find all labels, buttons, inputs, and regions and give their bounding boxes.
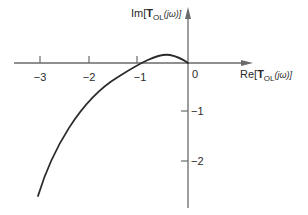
origin-label: 0 [192, 68, 198, 80]
x-tick-label-neg2: −2 [83, 71, 96, 83]
imag-axis-arrow-icon [185, 7, 191, 19]
real-label-sub: OL [264, 74, 275, 83]
imag-label-arg: (jω)] [164, 9, 182, 19]
imag-label-sub: OL [153, 13, 164, 22]
real-label-prefix: Re[ [240, 68, 257, 80]
nyquist-diagram: −3 −2 −1 0 −1 −2 Im[TOL(jω)] Re[TOL(jω)] [0, 0, 308, 215]
x-tick-label-neg1: −1 [134, 71, 147, 83]
real-axis-label: Re[TOL(jω)] [240, 68, 293, 83]
y-tick-label-neg1: −1 [191, 105, 204, 117]
y-tick-label-neg2: −2 [191, 155, 204, 167]
real-label-arg: (jω)] [275, 70, 293, 80]
imag-label-prefix: Im[ [131, 7, 146, 19]
nyquist-curve [38, 55, 188, 196]
real-axis-arrow-icon [241, 60, 253, 66]
imag-axis-label: Im[TOL(jω)] [131, 7, 182, 22]
x-tick-label-neg3: −3 [34, 71, 47, 83]
